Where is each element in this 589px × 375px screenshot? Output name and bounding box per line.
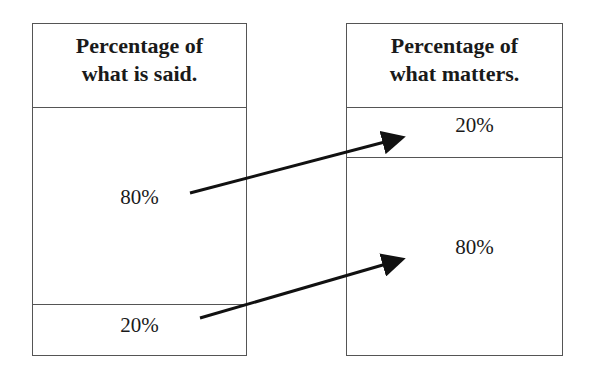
arrows-layer: [0, 0, 589, 375]
arrow-said20-to-matters80: [200, 260, 400, 318]
arrow-said80-to-matters20: [190, 138, 400, 193]
